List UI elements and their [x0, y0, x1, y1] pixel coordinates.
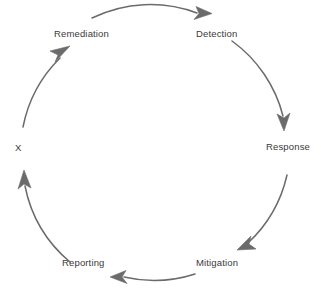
edge-x-to-remediation — [23, 46, 70, 127]
node-label-reporting: Reporting — [62, 257, 105, 268]
edge-reporting-to-x — [18, 170, 70, 262]
edge-arc — [248, 175, 287, 243]
edge-response-to-mitigation — [237, 175, 287, 250]
edge-mitigation-to-reporting — [110, 271, 195, 284]
edge-arc — [124, 274, 195, 280]
node-label-detection: Detection — [196, 28, 237, 39]
node-label-mitigation: Mitigation — [196, 257, 238, 268]
edge-remediation-to-detection — [92, 5, 212, 20]
edge-arc — [232, 41, 283, 116]
edge-arc — [25, 186, 70, 262]
edge-arc — [92, 5, 197, 18]
node-label-remediation: Remediation — [54, 28, 109, 39]
edge-detection-to-response — [232, 41, 290, 131]
edge-arc — [23, 58, 60, 127]
node-label-x: X — [15, 142, 22, 153]
node-label-response: Response — [266, 141, 310, 152]
arrowhead-icon — [50, 46, 70, 62]
